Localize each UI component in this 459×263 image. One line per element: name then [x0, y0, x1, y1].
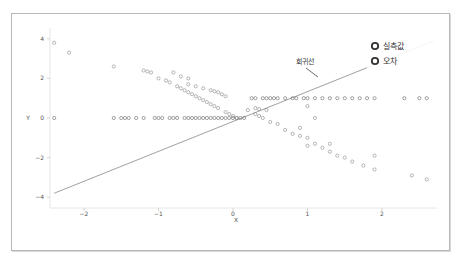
measured-point: [205, 116, 208, 119]
measured-point: [194, 116, 197, 119]
error-point: [187, 83, 190, 86]
measured-point: [366, 97, 369, 100]
error-point: [213, 105, 216, 108]
y-tick-label: 4: [40, 35, 44, 42]
measured-point: [224, 116, 227, 119]
measured-point: [142, 116, 145, 119]
measured-point: [53, 116, 56, 119]
measured-point: [284, 97, 287, 100]
error-point: [146, 70, 149, 73]
scatter-chart: −2−1012 420−2−4 X Y 회귀선 실측값 오차: [0, 0, 459, 263]
measured-point: [127, 116, 130, 119]
error-point: [164, 79, 167, 82]
measured-point: [295, 97, 298, 100]
error-point: [68, 51, 71, 54]
error-point: [220, 93, 223, 96]
error-point: [425, 178, 428, 181]
measured-point: [336, 97, 339, 100]
measured-point: [198, 116, 201, 119]
error-point: [269, 120, 272, 123]
measured-point: [254, 97, 257, 100]
measured-point: [228, 116, 231, 119]
error-point: [179, 75, 182, 78]
annotation-text: 회귀선: [296, 57, 314, 66]
y-tick-label: 0: [40, 114, 44, 121]
error-point: [328, 150, 331, 153]
error-point: [298, 134, 301, 137]
measured-point: [183, 116, 186, 119]
measured-point: [190, 116, 193, 119]
measured-point: [272, 97, 275, 100]
error-point: [202, 99, 205, 102]
error-point: [265, 108, 268, 111]
x-tick-label: 1: [306, 210, 310, 217]
y-axis-label: Y: [25, 114, 30, 121]
error-point: [257, 114, 260, 117]
error-point: [176, 85, 179, 88]
error-point: [187, 77, 190, 80]
measured-point: [269, 97, 272, 100]
error-point: [194, 95, 197, 98]
error-point: [198, 97, 201, 100]
measured-point: [213, 116, 216, 119]
measured-point: [120, 116, 123, 119]
error-point: [298, 126, 301, 129]
legend-label-error: 오차: [383, 57, 398, 66]
error-point: [213, 90, 216, 93]
y-tick-label: −2: [35, 154, 44, 161]
measured-point: [403, 97, 406, 100]
y-tick-label: −4: [35, 193, 44, 200]
error-point: [410, 174, 413, 177]
measured-point: [302, 97, 305, 100]
measured-point: [351, 97, 354, 100]
measured-point: [306, 97, 309, 100]
error-point: [149, 71, 152, 74]
error-point: [168, 81, 171, 84]
error-point: [343, 156, 346, 159]
measured-point: [343, 97, 346, 100]
error-point: [179, 87, 182, 90]
error-point: [291, 132, 294, 135]
error-point: [246, 108, 249, 111]
error-point: [157, 77, 160, 80]
error-point: [254, 107, 257, 110]
error-point: [183, 89, 186, 92]
error-point: [187, 91, 190, 94]
error-point: [306, 105, 309, 108]
x-tick-label: −2: [80, 210, 89, 217]
measured-point: [187, 116, 190, 119]
measured-point: [321, 97, 324, 100]
measured-point: [220, 116, 223, 119]
error-point: [313, 116, 316, 119]
error-point: [284, 128, 287, 131]
error-point: [373, 168, 376, 171]
measured-point: [373, 97, 376, 100]
error-point: [209, 103, 212, 106]
x-tick-label: 2: [380, 210, 384, 217]
measured-point: [265, 97, 268, 100]
error-point: [112, 65, 115, 68]
annotation-arrow: [306, 68, 318, 77]
measured-point: [176, 116, 179, 119]
error-point: [362, 164, 365, 167]
measured-point: [123, 116, 126, 119]
error-point: [336, 154, 339, 157]
measured-point: [161, 116, 164, 119]
error-point: [276, 122, 279, 125]
measured-point: [328, 97, 331, 100]
measured-point: [209, 116, 212, 119]
measured-point: [418, 97, 421, 100]
error-point: [142, 69, 145, 72]
error-point: [224, 110, 227, 113]
error-point: [172, 71, 175, 74]
error-point: [235, 116, 238, 119]
legend: 실측값 오차: [367, 34, 437, 72]
error-point: [306, 144, 309, 147]
error-point: [217, 107, 220, 110]
error-point: [321, 146, 324, 149]
error-point: [209, 89, 212, 92]
error-point: [217, 91, 220, 94]
measured-point: [153, 116, 156, 119]
measured-point: [250, 97, 253, 100]
x-axis-ticks: −2−1012: [80, 208, 385, 217]
